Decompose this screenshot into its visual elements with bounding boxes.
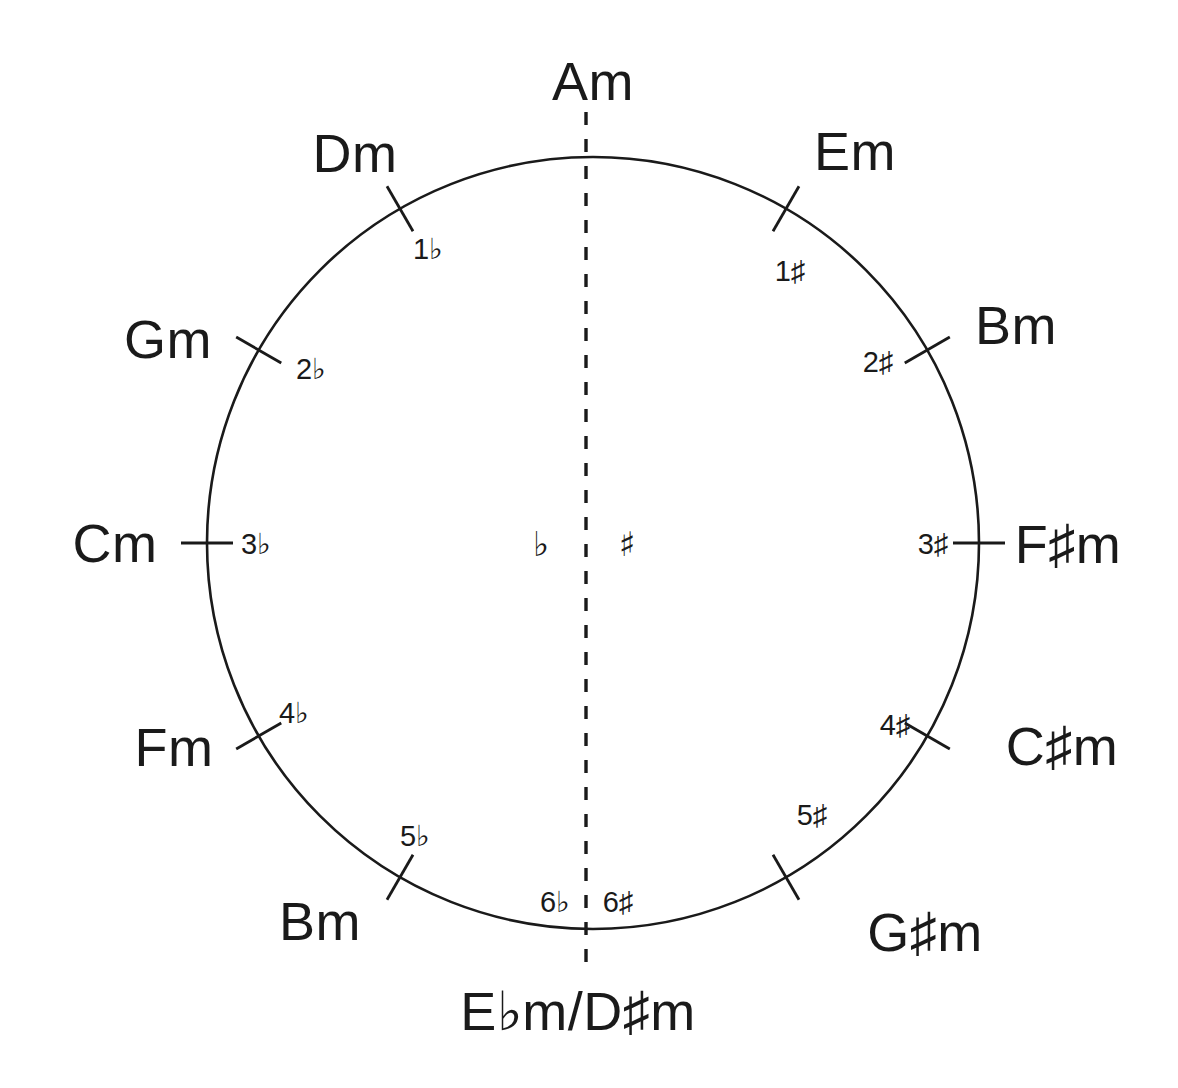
key-label-bbm: Bm — [279, 891, 361, 951]
tick-mark-em — [773, 186, 799, 231]
key-label-gsm: G♯m — [867, 902, 983, 962]
accidental-count-bm: 2♯ — [863, 346, 894, 378]
center-sharp-marker: ♯ — [619, 524, 635, 564]
tick-mark-gm — [236, 337, 281, 363]
circle-outline — [207, 157, 979, 929]
key-label-am: Am — [552, 51, 634, 111]
tick-mark-fm — [236, 723, 281, 749]
key-label-bm: Bm — [975, 295, 1057, 355]
tick-mark-dm — [387, 186, 413, 231]
key-label-group: AmEm1♯Bm2♯F♯m3♯C♯m4♯G♯m5♯E♭m/D♯mBm5♭Fm4♭… — [73, 51, 1122, 1041]
tick-mark-bm — [905, 337, 950, 363]
accidental-count-gm: 2♭ — [296, 353, 326, 385]
circle-of-fifths-diagram: AmEm1♯Bm2♯F♯m3♯C♯m4♯G♯m5♯E♭m/D♯mBm5♭Fm4♭… — [0, 0, 1178, 1088]
circle-of-fifths-canvas: AmEm1♯Bm2♯F♯m3♯C♯m4♯G♯m5♯E♭m/D♯mBm5♭Fm4♭… — [0, 0, 1178, 1088]
bottom-flat-count-label: 6♭ — [540, 886, 570, 918]
accidental-count-fm: 4♭ — [279, 697, 309, 729]
bottom-sharp-count-label: 6♯ — [603, 886, 634, 918]
key-label-dm: Dm — [313, 123, 398, 183]
accidental-count-csm: 4♯ — [880, 709, 911, 741]
tick-mark-gsm — [773, 855, 799, 900]
key-label-gm: Gm — [124, 309, 212, 369]
key-label-fsm: F♯m — [1015, 514, 1121, 574]
center-flat-marker: ♭ — [533, 524, 549, 564]
accidental-count-em: 1♯ — [775, 255, 806, 287]
key-label-cm: Cm — [73, 513, 158, 573]
key-label-ebm-dsm: E♭m/D♯m — [460, 981, 695, 1041]
accidental-count-cm: 3♭ — [241, 528, 271, 560]
accidental-count-bbm: 5♭ — [400, 820, 430, 852]
key-label-em: Em — [814, 121, 896, 181]
accidental-count-gsm: 5♯ — [797, 799, 828, 831]
key-label-csm: C♯m — [1006, 716, 1118, 776]
accidental-count-dm: 1♭ — [413, 233, 443, 265]
key-label-fm: Fm — [135, 717, 214, 777]
tick-mark-csm — [905, 723, 950, 749]
accidental-count-fsm: 3♯ — [918, 528, 949, 560]
tick-mark-bbm — [387, 855, 413, 900]
tick-mark-group — [181, 186, 1005, 900]
